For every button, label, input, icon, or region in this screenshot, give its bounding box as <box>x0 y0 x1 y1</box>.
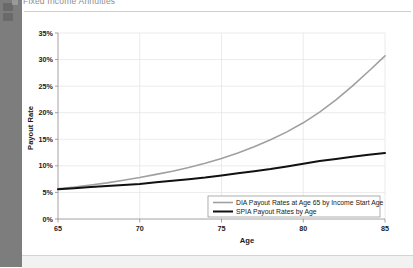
page-title: Fixed Income Annuities <box>23 0 115 6</box>
sidebar-tab-icon-2[interactable] <box>3 13 13 21</box>
x-tick-label: 80 <box>299 224 307 233</box>
y-tick-label: 25% <box>39 82 54 91</box>
payout-rate-chart: 0%5%10%15%20%25%30%35% 6570758085 Payout… <box>22 12 413 255</box>
legend-label-1[interactable]: DIA Payout Rates at Age 65 by Income Sta… <box>236 199 384 207</box>
x-axis-title: Age <box>240 236 254 245</box>
y-tick-labels: 0%5%10%15%20%25%30%35% <box>39 29 54 224</box>
document-header: Fixed Income Annuities <box>4 0 384 7</box>
y-tick-label: 15% <box>39 135 54 144</box>
x-tick-label: 65 <box>54 224 62 233</box>
y-tick-label: 0% <box>43 215 54 224</box>
tick-marks <box>55 33 385 223</box>
y-tick-label: 5% <box>43 188 54 197</box>
page-bottom-strip <box>22 255 413 268</box>
y-tick-label: 20% <box>39 108 54 117</box>
chart-svg: 0%5%10%15%20%25%30%35% 6570758085 Payout… <box>22 12 413 255</box>
y-tick-label: 35% <box>39 29 54 38</box>
x-tick-label: 85 <box>381 224 389 233</box>
x-tick-labels: 6570758085 <box>54 224 389 233</box>
sidebar-rail <box>0 0 22 267</box>
x-tick-label: 75 <box>218 224 226 233</box>
legend-label-2[interactable]: SPIA Payout Rates by Age <box>236 208 317 216</box>
y-tick-label: 10% <box>39 161 54 170</box>
grid-lines <box>58 33 385 219</box>
y-tick-label: 30% <box>39 55 54 64</box>
bullet-icon <box>12 0 18 5</box>
chart-legend[interactable]: DIA Payout Rates at Age 65 by Income Sta… <box>208 196 384 217</box>
y-axis-title: Payout Rate <box>26 106 35 150</box>
x-tick-label: 70 <box>136 224 144 233</box>
